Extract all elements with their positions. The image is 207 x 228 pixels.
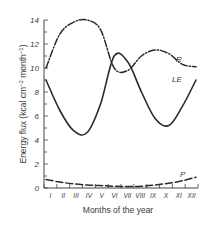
x-tick-label: III [73,192,79,199]
x-tick-label: II [61,192,65,199]
x-tick-label: I [50,192,52,199]
series-label-r: R [176,55,182,64]
x-tick-label: V [100,192,105,199]
x-axis-title: Months of the year [83,205,154,215]
x-tick-label: VI [112,192,118,199]
y-tick-label: 6 [35,112,40,121]
y-tick-label: 2 [34,160,40,169]
y-tick-label: 8 [35,88,40,97]
x-tick-label: XII [187,192,196,199]
series-label-p: P [180,170,186,179]
y-tick-label: 4 [35,136,40,145]
series-line-r [46,20,196,73]
y-tick-label: 0 [35,184,40,193]
y-axis-title: Energy flux (kcal cm−2 month−1) [18,44,28,163]
y-axis: 02468101214 [30,16,48,193]
series-label-le: LE [172,75,182,84]
series-line-le [46,53,196,135]
x-tick-label: XI [175,192,182,199]
y-tick-label: 10 [30,64,39,73]
x-tick-label: X [163,192,169,199]
x-tick-label: IV [86,192,93,199]
energy-flux-chart: 02468101214 IIIIIIIVVVIVIIVIIIIXXXIXII R… [0,0,207,228]
y-tick-label: 14 [30,16,39,25]
x-tick-label: IX [150,192,157,199]
series-lines [46,20,196,187]
x-tick-label: VII [123,192,131,199]
y-tick-label: 12 [30,40,39,49]
x-tick-label: VIII [135,192,145,199]
